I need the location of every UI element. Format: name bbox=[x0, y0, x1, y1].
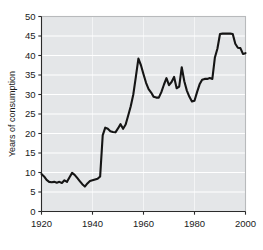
y-tick-label-20: 20 bbox=[25, 128, 36, 139]
y-tick-label-10: 10 bbox=[25, 167, 36, 178]
y-tick-label-0: 0 bbox=[30, 206, 35, 217]
y-axis-ticks-group: 05101520253035404550 bbox=[25, 11, 42, 217]
line-chart: 05101520253035404550 1920194019601980200… bbox=[0, 0, 263, 250]
x-tick-label-1920: 1920 bbox=[31, 218, 52, 229]
x-tick-label-1960: 1960 bbox=[133, 218, 154, 229]
y-tick-label-25: 25 bbox=[25, 108, 36, 119]
y-tick-label-45: 45 bbox=[25, 30, 36, 41]
y-tick-label-5: 5 bbox=[30, 186, 35, 197]
y-tick-label-40: 40 bbox=[25, 50, 36, 61]
y-tick-label-35: 35 bbox=[25, 69, 36, 80]
x-tick-label-1980: 1980 bbox=[184, 218, 205, 229]
x-axis-ticks-group: 19201940196019802000 bbox=[31, 212, 256, 229]
y-tick-label-30: 30 bbox=[25, 89, 36, 100]
y-tick-label-15: 15 bbox=[25, 147, 36, 158]
x-tick-label-1940: 1940 bbox=[82, 218, 103, 229]
x-tick-label-2000: 2000 bbox=[235, 218, 256, 229]
y-tick-label-50: 50 bbox=[25, 11, 36, 22]
y-axis-title: Years of consumption bbox=[7, 71, 17, 157]
chart-container: 05101520253035404550 1920194019601980200… bbox=[0, 0, 263, 250]
